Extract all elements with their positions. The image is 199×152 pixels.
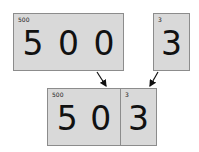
arrows <box>0 0 199 152</box>
arrow-icon <box>150 72 158 86</box>
arrow-icon <box>97 72 106 86</box>
